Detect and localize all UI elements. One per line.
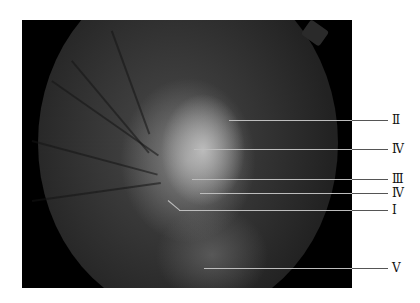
label-IV: Ⅳ bbox=[392, 143, 404, 155]
label-V: Ⅴ bbox=[392, 262, 400, 274]
leader-line bbox=[352, 120, 388, 121]
label-II: Ⅱ bbox=[392, 114, 400, 126]
leader-line bbox=[200, 193, 352, 194]
leader-line bbox=[352, 193, 388, 194]
leader-line bbox=[194, 149, 352, 150]
leader-line bbox=[352, 268, 388, 269]
leader-line bbox=[204, 268, 352, 269]
label-I: Ⅰ bbox=[392, 204, 396, 216]
leader-line bbox=[352, 179, 388, 180]
leader-line bbox=[179, 210, 352, 211]
leader-line bbox=[352, 210, 388, 211]
leader-line bbox=[192, 179, 352, 180]
label-III: Ⅲ bbox=[392, 173, 403, 185]
fundus-image-frame bbox=[22, 20, 352, 288]
leader-line bbox=[229, 120, 352, 121]
label-IV: Ⅳ bbox=[392, 187, 404, 199]
leader-line bbox=[352, 149, 388, 150]
